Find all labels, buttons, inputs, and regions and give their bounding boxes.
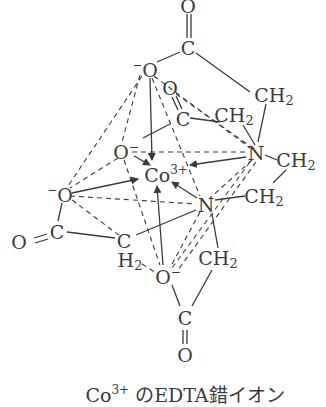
atom-ch2-right-lower: CH2 <box>244 187 283 208</box>
atom-c-top: C <box>181 39 196 58</box>
atom-c-inner: C <box>176 110 191 129</box>
atom-o-far-left: O <box>11 233 27 252</box>
atom-n-upper: N <box>248 144 265 163</box>
atom-o-left-inner: O− <box>113 141 139 162</box>
atom-h2-lower-mid: H2 <box>118 251 143 272</box>
atom-o-upper-left: −O <box>132 59 158 80</box>
atom-o-bottom: O <box>177 346 193 365</box>
atom-n-lower: N <box>198 196 215 215</box>
atom-o-inner: O <box>162 79 178 98</box>
atom-ch2-right-upper: CH2 <box>276 151 315 172</box>
atom-c-left: C <box>50 223 65 242</box>
atom-ch2-upper-right: CH2 <box>254 86 293 107</box>
atom-c-bottom: C <box>178 309 193 328</box>
atom-o-left-outer: −O <box>47 184 73 205</box>
center-ion-cobalt: Co3+ <box>144 164 188 185</box>
atom-ch2-bottom-right: CH2 <box>198 249 237 270</box>
diagram-caption: Co3+ のEDTA錯イオン <box>85 380 284 407</box>
atom-ch2-inner: CH2 <box>214 106 253 127</box>
atom-o-bottom-inner: O− <box>155 266 181 287</box>
atom-o-top: O <box>180 0 196 16</box>
